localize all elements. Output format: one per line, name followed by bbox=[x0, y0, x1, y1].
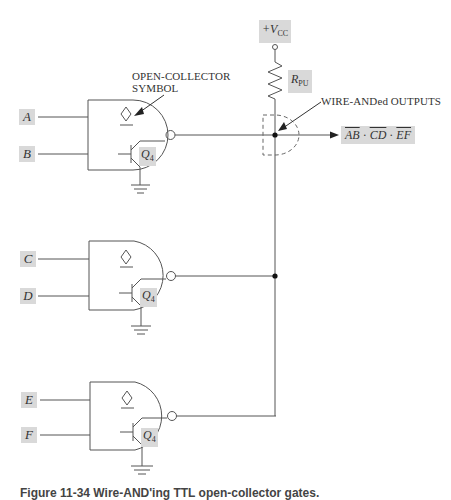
vcc-terminal bbox=[273, 45, 278, 50]
figure-caption: Figure 11-34 Wire-AND'ing TTL open-colle… bbox=[20, 486, 319, 500]
wire-and-pointer bbox=[283, 102, 321, 128]
input-label-a: A bbox=[19, 109, 35, 125]
input-label-c: C bbox=[20, 251, 36, 267]
resistor-icon bbox=[268, 62, 282, 99]
junction-dot bbox=[272, 273, 277, 278]
pullup-resistor-label: RPU bbox=[288, 70, 312, 93]
term-ef: EF bbox=[396, 128, 411, 142]
nand-gate-1 bbox=[38, 100, 275, 193]
separator: · bbox=[389, 128, 393, 142]
vcc-label: +VCC bbox=[259, 20, 291, 43]
inverter-bubble-3 bbox=[168, 412, 177, 421]
input-label-f: F bbox=[21, 427, 37, 443]
wire-anded-annotation: WIRE-ANDed OUTPUTS bbox=[321, 95, 441, 107]
open-collector-icon bbox=[121, 107, 131, 121]
inverter-bubble-2 bbox=[167, 272, 176, 281]
term-ab: AB bbox=[345, 128, 360, 142]
term-cd: CD bbox=[370, 128, 387, 142]
input-label-b: B bbox=[19, 146, 35, 162]
open-collector-icon bbox=[122, 391, 132, 405]
junction-dot bbox=[272, 132, 277, 137]
output-arrow-icon bbox=[330, 132, 339, 139]
inverter-bubble-1 bbox=[166, 131, 175, 140]
transistor-label-2: Q4 bbox=[140, 288, 157, 307]
transistor-label-3: Q4 bbox=[141, 428, 158, 447]
transistor-label-1: Q4 bbox=[139, 147, 156, 166]
separator: · bbox=[363, 128, 367, 142]
open-collector-icon bbox=[121, 250, 131, 264]
annotation-line-2: SYMBOL bbox=[132, 82, 230, 94]
open-collector-pointer bbox=[140, 95, 164, 112]
output-expression: AB · CD · EF bbox=[341, 126, 415, 144]
input-label-d: D bbox=[20, 288, 36, 304]
nand-gate-3 bbox=[40, 382, 276, 474]
open-collector-annotation: OPEN-COLLECTOR SYMBOL bbox=[132, 70, 230, 94]
annotation-line-1: OPEN-COLLECTOR bbox=[132, 70, 230, 82]
input-label-e: E bbox=[21, 392, 37, 408]
